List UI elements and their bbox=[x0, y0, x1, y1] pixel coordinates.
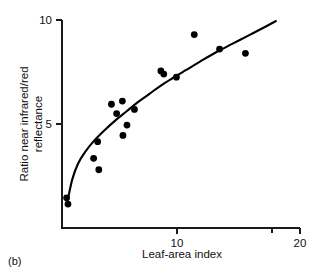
tick-marks bbox=[56, 20, 300, 234]
y-axis-title: Ratio near infrared/red reflectance bbox=[18, 66, 44, 181]
data-point bbox=[120, 132, 127, 139]
scatter-plot: 5101020 Leaf-area index Ratio near infra… bbox=[0, 0, 317, 276]
data-point bbox=[124, 122, 131, 129]
figure-panel: 5101020 Leaf-area index Ratio near infra… bbox=[0, 0, 317, 276]
data-point bbox=[173, 74, 180, 81]
axis-lines bbox=[62, 20, 300, 228]
y-tick-label-10: 10 bbox=[39, 14, 52, 26]
data-point bbox=[63, 194, 70, 201]
data-point bbox=[95, 166, 102, 173]
data-point bbox=[113, 110, 120, 117]
y-axis-title-line1: Ratio near infrared/red bbox=[18, 66, 30, 181]
panel-label: (b) bbox=[8, 255, 21, 267]
y-tick-label-5: 5 bbox=[46, 118, 52, 130]
data-point bbox=[94, 138, 101, 145]
data-point bbox=[160, 71, 167, 78]
data-point bbox=[108, 101, 115, 108]
x-axis-title: Leaf-area index bbox=[142, 248, 222, 260]
y-axis-title-line2: reflectance bbox=[32, 96, 44, 152]
x-tick-label-20: 20 bbox=[294, 237, 307, 249]
plot-axes bbox=[56, 20, 300, 234]
data-point bbox=[131, 106, 138, 113]
data-point bbox=[90, 155, 97, 162]
data-point bbox=[119, 98, 126, 105]
tick-labels: 5101020 bbox=[39, 14, 306, 249]
data-point bbox=[216, 46, 223, 53]
data-point bbox=[65, 201, 72, 208]
data-points bbox=[63, 31, 249, 207]
data-point bbox=[191, 31, 198, 38]
data-point bbox=[242, 50, 249, 57]
